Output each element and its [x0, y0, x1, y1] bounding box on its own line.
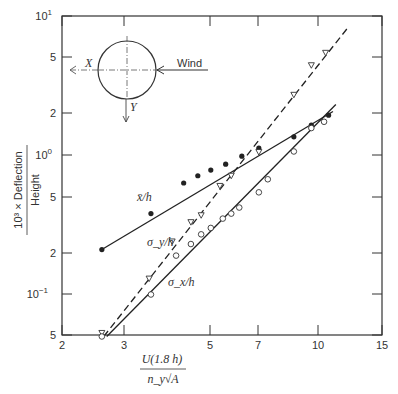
y-tick-label: 10−1 — [27, 286, 49, 300]
y-axis-label-numerator: 10³ × Deflection — [12, 151, 24, 228]
y-tick-label: 5 — [50, 329, 56, 341]
y-direction-label: Y — [130, 100, 138, 114]
y-tick-label: 5 — [50, 191, 56, 203]
y-tick-label: 100 — [35, 147, 52, 161]
open-triangle-marker — [323, 50, 329, 56]
open-circle-marker — [208, 225, 214, 231]
y-tick-label: 2 — [50, 107, 56, 119]
open-circle-marker — [220, 216, 226, 222]
x-tick-label: 5 — [207, 339, 213, 351]
filled-circle-marker — [99, 247, 104, 252]
open-triangle-marker — [308, 63, 314, 69]
open-circle-marker — [256, 190, 262, 196]
series-fit-line — [102, 112, 333, 250]
open-triangle-marker — [291, 92, 297, 98]
filled-circle-marker — [181, 180, 186, 185]
x-direction-label: X — [84, 56, 93, 70]
x-axis-label: U(1.8 h) n_y√A — [140, 352, 186, 386]
y-tick-label: 101 — [35, 8, 52, 22]
x-tick-label: 2 — [59, 339, 65, 351]
filled-circle-marker — [223, 162, 228, 167]
x-axis-label-denominator: n_y√A — [147, 372, 179, 386]
wind-diagram: X Y Wind — [70, 36, 208, 122]
series-fit-line — [104, 29, 347, 336]
open-circle-marker — [291, 149, 297, 155]
x-tick-label: 3 — [121, 339, 127, 351]
x-axis-ticks: 23571015 — [59, 16, 388, 351]
open-circle-marker — [188, 241, 194, 247]
wind-label: Wind — [177, 57, 202, 69]
open-circle-marker — [228, 211, 234, 217]
plot-frame — [62, 16, 382, 335]
sigma-y-series-label: σ_y/h — [147, 235, 174, 249]
open-circle-marker — [265, 176, 271, 182]
filled-circle-marker — [291, 134, 296, 139]
x-tick-label: 10 — [312, 339, 324, 351]
open-circle-marker — [321, 119, 327, 125]
sigma-x-series-label: σ_x/h — [168, 275, 195, 289]
x-tick-label: 7 — [255, 339, 261, 351]
x-tick-label: 15 — [376, 339, 388, 351]
filled-circle-marker — [148, 211, 153, 216]
open-circle-marker — [173, 253, 179, 259]
y-tick-label: 2 — [50, 247, 56, 259]
data-series — [99, 29, 347, 339]
open-circle-marker — [99, 334, 105, 340]
y-axis-ticks: 101521005210−15 — [27, 8, 382, 341]
chart: 101521005210−15 23571015 X Y Wind x̄/h σ… — [0, 0, 398, 394]
mean-series-label: x̄/h — [136, 190, 152, 204]
open-circle-marker — [148, 292, 154, 298]
y-axis-label-denominator: Height — [29, 174, 41, 206]
filled-circle-marker — [208, 167, 213, 172]
open-circle-marker — [309, 125, 315, 131]
x-axis-label-numerator: U(1.8 h) — [142, 352, 183, 366]
open-circle-marker — [236, 205, 242, 211]
filled-circle-marker — [239, 154, 244, 159]
y-tick-label: 5 — [50, 51, 56, 63]
open-circle-marker — [198, 232, 204, 238]
filled-circle-marker — [195, 173, 200, 178]
